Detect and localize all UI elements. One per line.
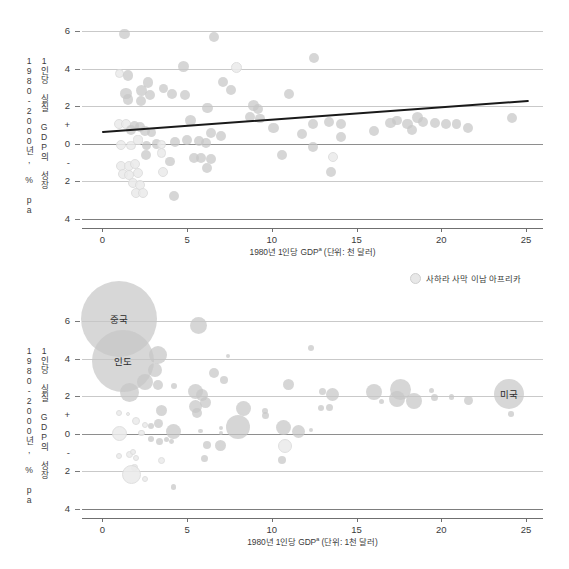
data-bubble: [326, 404, 333, 411]
xtick-mark-10: [272, 518, 273, 522]
data-bubble: [463, 123, 473, 133]
data-bubble: [165, 157, 175, 167]
ytick-label-2: 2: [56, 466, 70, 476]
data-bubble: [268, 123, 278, 133]
xtick-mark-15: [357, 228, 358, 232]
data-bubble: [220, 376, 228, 384]
data-bubble: [158, 457, 165, 464]
ytick-mark--2: [75, 181, 80, 182]
gridline-2: [82, 396, 543, 397]
data-bubble: [116, 410, 122, 416]
x-axis-line: [82, 518, 543, 519]
data-bubble: [203, 441, 211, 449]
data-bubble: [389, 391, 405, 407]
upper-scatter-chart: 1980-2000년, % pa 1인당 실질 GDP의 성장 642+0-24…: [0, 0, 569, 268]
data-bubble: [133, 455, 139, 461]
data-bubble: [379, 399, 384, 404]
data-bubble: [418, 117, 428, 127]
ytick-mark--4: [75, 509, 80, 510]
gridline--4: [82, 509, 543, 510]
ytick-mark--4: [75, 219, 80, 220]
xtick-mark-5: [187, 518, 188, 522]
data-bubble: [196, 153, 206, 163]
xtick-label-20: 20: [429, 234, 453, 245]
bubble-label-인도: 인도: [114, 354, 132, 368]
data-bubble: [130, 449, 136, 455]
data-bubble: [133, 168, 143, 178]
data-bubble: [231, 62, 242, 73]
data-bubble: [169, 191, 179, 201]
xtick-mark-0: [102, 228, 103, 232]
data-bubble: [319, 388, 326, 395]
data-bubble: [392, 116, 402, 126]
ytick-label-0: 0: [56, 139, 70, 149]
data-bubble: [262, 412, 269, 419]
data-bubble: [148, 423, 154, 429]
xtick-label-10: 10: [260, 524, 284, 535]
data-bubble: [126, 412, 130, 416]
xtick-mark-20: [441, 228, 442, 232]
data-bubble: [158, 167, 168, 177]
data-bubble: [142, 422, 148, 428]
data-bubble: [218, 77, 228, 87]
data-bubble: [141, 150, 151, 160]
data-bubble: [209, 32, 219, 42]
data-bubble: [284, 89, 294, 99]
xtick-label-0: 0: [90, 234, 114, 245]
data-bubble: [216, 131, 226, 141]
data-bubble: [336, 119, 346, 129]
legend-label-africa: 사하라 사막 이남 아프리카: [426, 272, 521, 284]
xtick-label-25: 25: [514, 524, 538, 535]
data-bubble: [406, 393, 422, 409]
ytick-mark-4: [75, 359, 80, 360]
ytick-label--: -: [56, 158, 70, 168]
xtick-mark-0: [102, 518, 103, 522]
gridline-6: [82, 31, 543, 32]
xtick-mark-25: [526, 518, 527, 522]
ytick-mark-2: [75, 106, 80, 107]
data-bubble: [236, 401, 251, 416]
xtick-mark-25: [526, 228, 527, 232]
lower-plot-area: 642+0-240510152025중국인도미국: [82, 310, 543, 520]
data-bubble: [178, 61, 189, 72]
data-bubble: [215, 440, 226, 451]
upper-xaxis-title-main: 1980년 1인당 GDP: [250, 247, 319, 257]
lower-xaxis-title-main: 1980년 1인당 GDP: [247, 537, 316, 547]
data-bubble: [308, 142, 318, 152]
xtick-label-10: 10: [260, 234, 284, 245]
data-bubble: [156, 438, 163, 445]
xtick-mark-20: [441, 518, 442, 522]
data-bubble: [369, 126, 379, 136]
data-bubble: [171, 383, 177, 389]
figure-root: 1980-2000년, % pa 1인당 실질 GDP의 성장 642+0-24…: [0, 0, 569, 569]
bubble-label-중국: 중국: [110, 312, 128, 326]
data-bubble: [308, 345, 314, 351]
data-bubble: [253, 104, 263, 114]
lower-xaxis-title-unit: (단위: 1천 달러): [319, 537, 377, 547]
ytick-mark-2: [75, 396, 80, 397]
ytick-label-0: 0: [56, 429, 70, 439]
xtick-label-5: 5: [175, 524, 199, 535]
data-bubble: [206, 128, 216, 138]
upper-xaxis-title: 1980년 1인당 GDPa (단위: 천 달러): [82, 245, 543, 257]
ytick-label-2: 2: [56, 176, 70, 186]
data-bubble: [116, 453, 122, 459]
data-bubble: [202, 163, 212, 173]
upper-yaxis-title-line2: 1인당 실질 GDP의 성장: [39, 56, 48, 189]
xtick-label-20: 20: [429, 524, 453, 535]
data-bubble: [156, 405, 167, 416]
upper-xaxis-title-unit: (단위: 천 달러): [322, 247, 376, 257]
data-bubble: [226, 85, 236, 95]
data-bubble: [122, 465, 141, 484]
upper-yaxis-title-line1: 1980-2000년, % pa: [24, 56, 33, 215]
data-bubble: [142, 141, 151, 150]
data-bubble: [198, 429, 202, 433]
data-bubble: [119, 29, 129, 39]
gridline-4: [82, 69, 543, 70]
data-bubble: [309, 53, 319, 63]
data-bubble: [170, 137, 180, 147]
data-bubble: [148, 436, 154, 442]
data-bubble: [123, 70, 133, 80]
ytick-label-4: 4: [56, 504, 70, 514]
africa-bubble-swatch: [410, 273, 421, 284]
